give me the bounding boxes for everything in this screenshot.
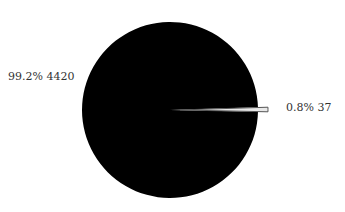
slice-label-large: 99.2% 4420	[8, 70, 74, 83]
slice-label-small: 0.8% 37	[286, 101, 331, 114]
